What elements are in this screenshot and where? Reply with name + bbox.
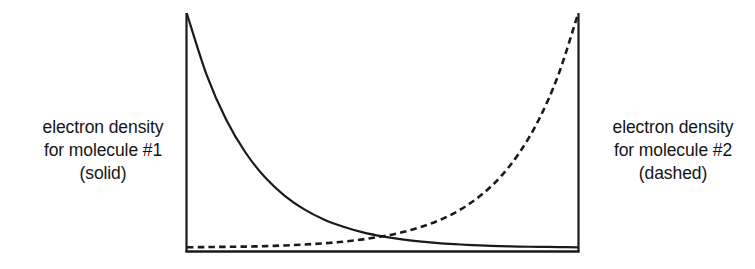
dashed-curve-molecule-2 — [187, 14, 578, 247]
electron-density-comparison-figure: electron density for molecule #1 (solid)… — [0, 0, 755, 269]
solid-curve-molecule-1 — [187, 14, 578, 247]
plot-area — [0, 0, 755, 269]
